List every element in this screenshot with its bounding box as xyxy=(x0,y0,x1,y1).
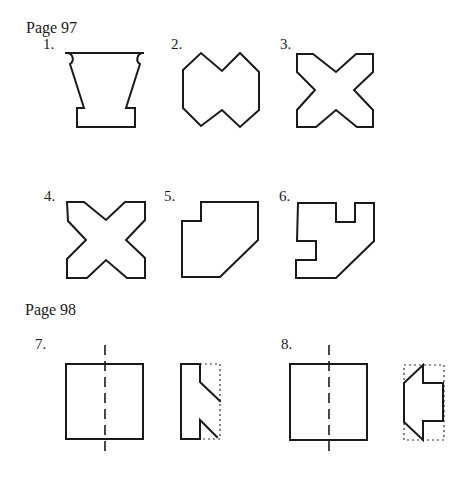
figure-2-double-hexagon-shape xyxy=(183,53,259,127)
figure-4-cross-shape xyxy=(67,202,145,278)
figure-8-square xyxy=(290,345,367,457)
figure-3-cross-shape xyxy=(297,54,373,127)
figure-7-cut-piece xyxy=(181,364,220,439)
figure-1-vase-shape xyxy=(66,53,143,127)
figure-6-double-notched-shape xyxy=(296,203,374,278)
figure-5-notched-pentagon-shape xyxy=(182,202,258,277)
figure-7-square xyxy=(66,345,143,452)
figure-8-cut-piece xyxy=(404,365,444,440)
figures-canvas xyxy=(0,0,475,478)
